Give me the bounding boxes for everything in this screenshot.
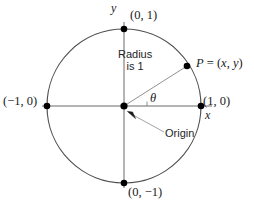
point-dot-origin <box>120 102 127 109</box>
left-point-label: (−1, 0) <box>3 95 37 108</box>
point-p-close: ) <box>238 56 242 70</box>
top-point-label: (0, 1) <box>130 9 157 22</box>
point-p-name: P <box>196 56 204 70</box>
right-point-label: (1, 0) <box>203 95 230 108</box>
radius-annotation-line1: Radius <box>118 48 152 60</box>
angle-label: θ <box>150 92 156 105</box>
bottom-point-label: (0, −1) <box>128 186 162 199</box>
origin-label: Origin <box>165 128 194 139</box>
point-dot-top <box>121 26 128 33</box>
y-axis-label: y <box>111 2 116 14</box>
point-p-equals: = ( <box>204 56 221 70</box>
radius-annotation-line2: is 1 <box>118 60 152 72</box>
origin-leader-line <box>133 115 164 132</box>
unit-circle-figure: y x (0, 1) (0, −1) (−1, 0) (1, 0) Radius… <box>0 0 254 203</box>
origin-arrowhead-icon <box>128 112 136 119</box>
point-dot-left <box>44 103 51 110</box>
point-p-label: P = (x, y) <box>196 57 243 70</box>
point-dot-bottom <box>121 180 128 187</box>
radius-annotation: Radius is 1 <box>118 48 152 73</box>
point-dot-p <box>184 63 191 70</box>
x-axis-label: x <box>205 109 210 121</box>
